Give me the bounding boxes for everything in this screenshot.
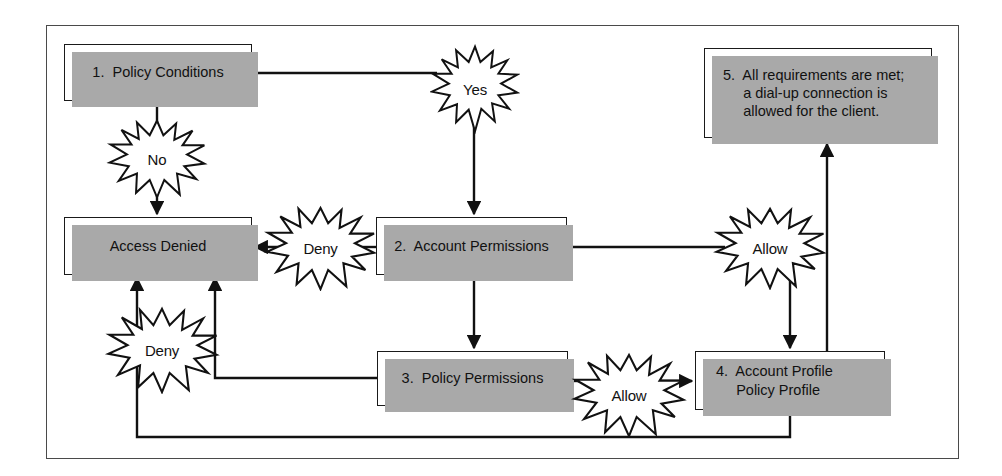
node-policy-permissions-label: 3. Policy Permissions <box>402 369 544 387</box>
node-access-denied-label: Access Denied <box>110 237 207 255</box>
flowchart-figure: 1. Policy Conditions Access Denied 2. Ac… <box>0 0 1002 476</box>
edge-3-to-denied <box>215 278 377 378</box>
burst-no: No <box>104 118 210 200</box>
node-requirements-met[interactable]: 5. All requirements are met; a dial-up c… <box>704 48 932 138</box>
burst-no-label: No <box>104 118 210 200</box>
node-access-denied[interactable]: Access Denied <box>64 217 252 275</box>
burst-allow-policy-permissions: Allow <box>570 352 688 438</box>
burst-deny-policy-permissions-label: Deny <box>104 306 220 394</box>
burst-deny-account-permissions-label: Deny <box>263 205 378 291</box>
node-account-permissions[interactable]: 2. Account Permissions <box>376 217 567 275</box>
node-policy-conditions[interactable]: 1. Policy Conditions <box>64 44 252 101</box>
burst-allow-account-permissions: Allow <box>712 206 828 290</box>
burst-allow-policy-permissions-label: Allow <box>570 352 688 438</box>
node-policy-conditions-label: 1. Policy Conditions <box>92 63 223 81</box>
burst-allow-account-permissions-label: Allow <box>712 206 828 290</box>
burst-deny-policy-permissions: Deny <box>104 306 220 394</box>
burst-yes-label: Yes <box>430 44 520 134</box>
burst-deny-account-permissions: Deny <box>263 205 378 291</box>
node-account-permissions-label: 2. Account Permissions <box>394 237 549 255</box>
node-account-policy-profile[interactable]: 4. Account Profile Policy Profile <box>695 351 885 410</box>
node-requirements-met-label: 5. All requirements are met; a dial-up c… <box>723 66 904 120</box>
node-account-policy-profile-label: 4. Account Profile Policy Profile <box>716 362 833 398</box>
burst-yes: Yes <box>430 44 520 134</box>
node-policy-permissions[interactable]: 3. Policy Permissions <box>377 351 568 406</box>
